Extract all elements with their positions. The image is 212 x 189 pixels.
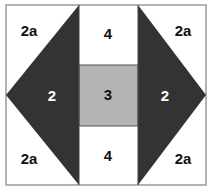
label-bottom-center: 4 [104, 147, 113, 164]
label-top-right: 2a [175, 22, 192, 39]
label-bottom-left: 2a [21, 150, 38, 167]
label-right-triangle: 2 [161, 87, 169, 104]
quilt-block-diagram: 2a 2a 2a 2a 2 2 3 4 4 [0, 0, 212, 189]
label-center: 3 [104, 86, 112, 103]
label-bottom-right: 2a [175, 150, 192, 167]
label-left-triangle: 2 [48, 87, 56, 104]
label-top-center: 4 [104, 25, 113, 42]
label-top-left: 2a [21, 22, 38, 39]
